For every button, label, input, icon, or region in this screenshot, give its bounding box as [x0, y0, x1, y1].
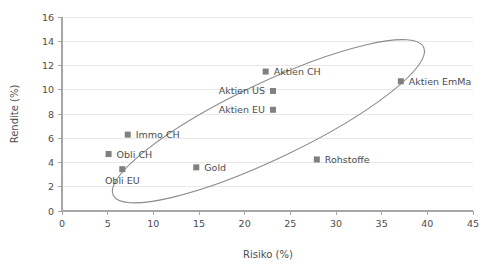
marker-immo-ch [125, 132, 131, 138]
marker-aktien-ch [263, 69, 269, 75]
y-tick-label-16: 16 [42, 12, 54, 23]
data-label-gold: Gold [204, 162, 226, 173]
y-tick-label-4: 4 [48, 157, 54, 168]
chart-canvas: 051015202530354045 0246810121416 Obli EU… [0, 0, 499, 273]
marker-obli-eu [119, 166, 125, 172]
y-tick-label-8: 8 [48, 109, 54, 120]
y-tick-label-6: 6 [48, 133, 54, 144]
x-tick-label-0: 0 [59, 218, 65, 229]
x-tick-label-45: 45 [467, 218, 479, 229]
data-label-aktien-emma: Aktien EmMa [409, 76, 472, 87]
x-tick-labels: 051015202530354045 [59, 218, 479, 229]
marker-aktien-us [270, 88, 276, 94]
data-point-obli-ch: Obli CH [106, 149, 153, 160]
marker-gold [193, 164, 199, 170]
y-tick-label-10: 10 [42, 84, 54, 95]
x-tick-label-5: 5 [105, 218, 111, 229]
data-label-immo-ch: Immo CH [136, 129, 180, 140]
marker-rohstoffe [314, 156, 320, 162]
data-point-rohstoffe: Rohstoffe [314, 154, 370, 165]
y-tick-label-2: 2 [48, 181, 54, 192]
data-point-aktien-emma: Aktien EmMa [398, 76, 472, 87]
x-tick-label-30: 30 [330, 218, 342, 229]
x-tick-label-20: 20 [239, 218, 251, 229]
y-tick-label-0: 0 [48, 206, 54, 217]
y-tick-label-14: 14 [42, 36, 54, 47]
data-label-aktien-ch: Aktien CH [274, 66, 321, 77]
marker-aktien-emma [398, 78, 404, 84]
data-label-obli-eu: Obli EU [105, 175, 140, 186]
x-tick-label-15: 15 [193, 218, 205, 229]
frontier-ellipse [97, 13, 440, 230]
data-label-rohstoffe: Rohstoffe [325, 154, 370, 165]
x-tick-label-10: 10 [147, 218, 159, 229]
y-tick-label-12: 12 [42, 60, 54, 71]
y-tick-labels: 0246810121416 [42, 12, 54, 217]
data-points: Obli EUObli CHImmo CHGoldRohstoffeAktien… [105, 66, 471, 186]
data-point-gold: Gold [193, 162, 226, 173]
x-tick-label-40: 40 [421, 218, 433, 229]
data-point-aktien-us: Aktien US [219, 85, 276, 96]
data-label-aktien-eu: Aktien EU [219, 104, 265, 115]
scatter-chart: 051015202530354045 0246810121416 Obli EU… [0, 0, 499, 273]
marker-obli-ch [106, 151, 112, 157]
x-axis-title: Risiko (%) [243, 249, 293, 260]
gridlines [62, 17, 473, 187]
marker-aktien-eu [270, 107, 276, 113]
data-point-obli-eu: Obli EU [105, 166, 140, 186]
frontier-ellipse-annotation [97, 13, 440, 230]
x-tick-label-35: 35 [376, 218, 388, 229]
x-tick-label-25: 25 [284, 218, 296, 229]
data-label-aktien-us: Aktien US [219, 85, 265, 96]
data-point-aktien-ch: Aktien CH [263, 66, 321, 77]
y-axis-title: Rendite (%) [9, 85, 20, 144]
data-label-obli-ch: Obli CH [117, 149, 153, 160]
